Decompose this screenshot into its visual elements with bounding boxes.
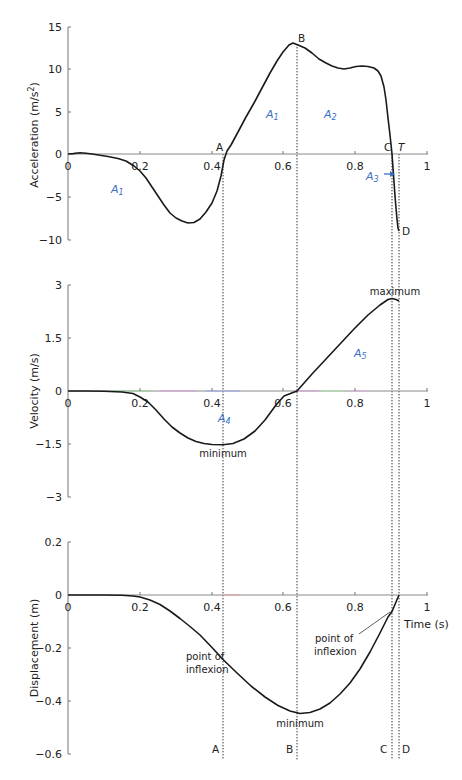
disp-ytick-0.2: 0.2 bbox=[45, 536, 63, 549]
accel-xtick-0.6: 0.6 bbox=[274, 160, 292, 173]
vel-ytick-neg1.5: −1.5 bbox=[35, 438, 62, 451]
accel-ytick-neg5: −5 bbox=[46, 191, 62, 204]
bottom-label-a: A bbox=[212, 743, 220, 755]
accel-ytick-neg10: −10 bbox=[39, 234, 62, 247]
inflexion-label-a-line2: inflexion bbox=[186, 664, 229, 675]
disp-y-label: Displacement (m) bbox=[28, 599, 41, 697]
disp-xtick-0.4: 0.4 bbox=[203, 601, 221, 614]
accel-ytick-15: 15 bbox=[48, 21, 62, 34]
vel-xtick-0.2: 0.2 bbox=[131, 397, 149, 410]
guide-lines bbox=[223, 44, 399, 760]
area-label-a4: A4 bbox=[217, 412, 231, 426]
accel-point-a: A bbox=[216, 141, 224, 153]
vel-maximum-label: maximum bbox=[370, 286, 420, 297]
vel-xtick-1: 1 bbox=[424, 397, 431, 410]
acceleration-curve bbox=[68, 43, 399, 231]
disp-minimum-label: minimum bbox=[276, 718, 323, 729]
time-axis-label: Time (s) bbox=[403, 618, 449, 631]
vel-xtick-0: 0 bbox=[65, 397, 72, 410]
accel-point-t: T bbox=[398, 141, 406, 153]
disp-xtick-0.8: 0.8 bbox=[346, 601, 364, 614]
disp-xtick-0: 0 bbox=[65, 601, 72, 614]
vel-ytick-3: 3 bbox=[55, 279, 62, 292]
area-label-a1-positive: A1 bbox=[265, 108, 279, 122]
disp-xtick-0.6: 0.6 bbox=[274, 601, 292, 614]
accel-ytick-10: 10 bbox=[48, 63, 62, 76]
vel-minimum-label: minimum bbox=[199, 448, 246, 459]
velocity-curve bbox=[68, 299, 399, 445]
accel-point-c: C bbox=[384, 141, 391, 153]
displacement-panel: 0.2 0 −0.2 −0.4 −0.6 0 0.2 0.4 0.6 0.8 1… bbox=[28, 536, 449, 761]
area-label-a3: A3 bbox=[365, 170, 379, 184]
disp-ytick-neg0.6: −0.6 bbox=[35, 748, 62, 761]
area-label-a5: A5 bbox=[353, 347, 367, 361]
accel-ytick-0: 0 bbox=[55, 148, 62, 161]
inflexion-label-c-line1: point of bbox=[315, 633, 354, 644]
kinematics-figure: 15 10 5 0 −5 −10 0 0.2 0.4 0.6 0.8 1 Acc… bbox=[0, 0, 462, 780]
accel-xtick-0.4: 0.4 bbox=[203, 160, 221, 173]
vel-ytick-0: 0 bbox=[55, 385, 62, 398]
accel-y-label: Acceleration (m/s2) bbox=[27, 82, 41, 188]
velocity-panel: 3 1.5 0 −1.5 −3 0 0.2 0.4 0.6 0.8 1 Velo… bbox=[28, 279, 431, 504]
vel-ytick-neg3: −3 bbox=[46, 491, 62, 504]
inflexion-label-c-line2: inflexion bbox=[314, 646, 357, 657]
disp-ytick-0: 0 bbox=[55, 589, 62, 602]
accel-xtick-1: 1 bbox=[424, 160, 431, 173]
vel-xtick-0.4: 0.4 bbox=[203, 397, 221, 410]
accel-ytick-5: 5 bbox=[55, 106, 62, 119]
vel-y-label: Velocity (m/s) bbox=[28, 353, 41, 428]
bottom-label-c: C bbox=[380, 743, 387, 755]
inflexion-label-a-line1: point of bbox=[186, 651, 225, 662]
vel-ytick-1.5: 1.5 bbox=[45, 332, 63, 345]
accel-xtick-0: 0 bbox=[65, 160, 72, 173]
acceleration-panel: 15 10 5 0 −5 −10 0 0.2 0.4 0.6 0.8 1 Acc… bbox=[27, 21, 431, 247]
accel-xtick-0.8: 0.8 bbox=[346, 160, 364, 173]
accel-point-b: B bbox=[298, 32, 305, 44]
area-label-a2: A2 bbox=[323, 108, 337, 122]
area-label-a1-negative: A1 bbox=[110, 183, 124, 197]
bottom-label-b: B bbox=[286, 743, 293, 755]
bottom-label-d: D bbox=[402, 743, 410, 755]
vel-xtick-0.8: 0.8 bbox=[346, 397, 364, 410]
disp-xtick-1: 1 bbox=[424, 601, 431, 614]
disp-xtick-0.2: 0.2 bbox=[131, 601, 149, 614]
accel-point-d: D bbox=[402, 225, 410, 237]
